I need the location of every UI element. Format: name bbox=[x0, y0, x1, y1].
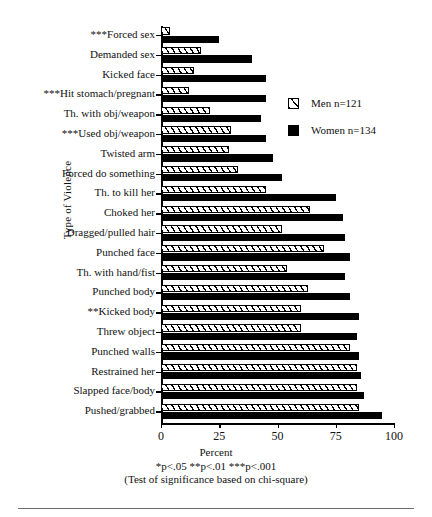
chart-row: Restrained her bbox=[161, 363, 394, 383]
bar-men bbox=[161, 245, 324, 252]
bar-women bbox=[161, 75, 266, 82]
chart-row: Forced do something bbox=[161, 165, 394, 185]
bar-women bbox=[161, 36, 219, 43]
legend-label-men: Men n=121 bbox=[311, 97, 362, 109]
bar-men bbox=[161, 324, 301, 331]
bar-men bbox=[161, 146, 229, 153]
bar-women bbox=[161, 273, 345, 280]
y-axis-tick-label: Twisted arm bbox=[100, 146, 155, 160]
x-axis-tick bbox=[394, 423, 395, 428]
bar-women bbox=[161, 392, 364, 399]
filled-square-icon bbox=[288, 125, 299, 136]
y-axis-tick-label: Choked her bbox=[104, 205, 155, 219]
bar-men bbox=[161, 285, 308, 292]
chart-row: ***Forced sex bbox=[161, 26, 394, 46]
bar-men bbox=[161, 87, 189, 94]
y-axis-tick-label: ***Forced sex bbox=[91, 27, 155, 41]
bar-men bbox=[161, 206, 310, 213]
x-axis-tick bbox=[161, 423, 162, 428]
test-note: (Test of significance based on chi-squar… bbox=[0, 473, 432, 485]
legend-item-women: Women n=134 bbox=[288, 124, 376, 136]
bar-women bbox=[161, 333, 357, 340]
bar-men bbox=[161, 166, 238, 173]
x-axis-tick-label: 100 bbox=[385, 429, 403, 444]
bar-women bbox=[161, 313, 359, 320]
bar-men bbox=[161, 305, 301, 312]
chart-row: Choked her bbox=[161, 204, 394, 224]
bar-men bbox=[161, 27, 170, 34]
y-axis-tick-label: Punched walls bbox=[91, 344, 155, 358]
y-axis-tick-label: Dragged/pulled hair bbox=[67, 225, 155, 239]
x-axis-tick bbox=[336, 423, 337, 428]
chart-row: Punched body bbox=[161, 283, 394, 303]
y-axis-tick-label: Slapped face/body bbox=[73, 383, 155, 397]
bar-women bbox=[161, 293, 350, 300]
chart-row: Threw object bbox=[161, 323, 394, 343]
bar-women bbox=[161, 352, 359, 359]
chart-row: Th. with hand/fist bbox=[161, 264, 394, 284]
violence-bar-chart-figure: Type of Violence ***Forced sexDemanded s… bbox=[0, 0, 432, 517]
chart-row: Dragged/pulled hair bbox=[161, 224, 394, 244]
bar-men bbox=[161, 364, 357, 371]
y-axis-tick-label: Forced do something bbox=[62, 166, 155, 180]
x-axis-title: Percent bbox=[0, 446, 432, 458]
x-axis-tick-label: 0 bbox=[158, 429, 164, 444]
bar-women bbox=[161, 234, 345, 241]
x-axis-tick bbox=[278, 423, 279, 428]
bar-women bbox=[161, 115, 261, 122]
bar-women bbox=[161, 174, 282, 181]
legend-label-women: Women n=134 bbox=[311, 124, 376, 136]
x-axis-tick bbox=[219, 423, 220, 428]
y-axis-tick-label: Restrained her bbox=[91, 364, 155, 378]
chart-legend: Men n=121 Women n=134 bbox=[288, 97, 376, 151]
chart-row: Punched face bbox=[161, 244, 394, 264]
bar-men bbox=[161, 344, 350, 351]
bar-men bbox=[161, 384, 357, 391]
bar-women bbox=[161, 135, 266, 142]
bar-men bbox=[161, 67, 194, 74]
chart-row: Pushed/grabbed bbox=[161, 402, 394, 422]
bar-men bbox=[161, 225, 282, 232]
y-axis-tick-label: Th. with obj/weapon bbox=[64, 106, 155, 120]
bar-men bbox=[161, 126, 231, 133]
y-axis-tick-label: Th. to kill her bbox=[95, 185, 156, 199]
y-axis-tick-label: **Kicked body bbox=[87, 304, 155, 318]
y-axis-tick-label: Threw object bbox=[97, 324, 155, 338]
bar-women bbox=[161, 214, 343, 221]
y-axis-tick-label: ***Used obj/weapon bbox=[62, 126, 155, 140]
y-axis-tick-label: Th. with hand/fist bbox=[76, 265, 155, 279]
chart-row: Slapped face/body bbox=[161, 382, 394, 402]
chart-row: Kicked face bbox=[161, 66, 394, 86]
y-axis-tick-label: Punched face bbox=[96, 245, 155, 259]
bar-men bbox=[161, 404, 359, 411]
legend-item-men: Men n=121 bbox=[288, 97, 376, 109]
chart-row: Punched walls bbox=[161, 343, 394, 363]
bar-women bbox=[161, 55, 252, 62]
x-axis-tick-label: 75 bbox=[330, 429, 342, 444]
y-axis-tick-label: Demanded sex bbox=[90, 47, 155, 61]
bar-women bbox=[161, 253, 350, 260]
bar-women bbox=[161, 194, 336, 201]
bar-men bbox=[161, 186, 266, 193]
bar-women bbox=[161, 412, 382, 419]
bar-women bbox=[161, 95, 266, 102]
bar-women bbox=[161, 154, 273, 161]
footer-divider bbox=[18, 508, 414, 509]
y-axis-tick-label: Pushed/grabbed bbox=[85, 403, 155, 417]
chart-row: Th. to kill her bbox=[161, 184, 394, 204]
chart-row: **Kicked body bbox=[161, 303, 394, 323]
chart-row: Demanded sex bbox=[161, 46, 394, 66]
y-axis-tick-label: Kicked face bbox=[102, 67, 155, 81]
x-axis-tick-label: 50 bbox=[272, 429, 284, 444]
bar-men bbox=[161, 107, 210, 114]
bar-men bbox=[161, 265, 287, 272]
hatched-square-icon bbox=[288, 98, 299, 109]
bar-men bbox=[161, 47, 201, 54]
significance-note: *p<.05 **p<.01 ***p<.001 bbox=[0, 460, 432, 472]
y-axis-tick-label: Punched body bbox=[92, 284, 155, 298]
plot-area: ***Forced sexDemanded sexKicked face***H… bbox=[161, 26, 394, 422]
x-axis-tick-label: 25 bbox=[213, 429, 225, 444]
y-axis-tick-label: ***Hit stomach/pregnant bbox=[43, 86, 155, 100]
bar-women bbox=[161, 372, 361, 379]
